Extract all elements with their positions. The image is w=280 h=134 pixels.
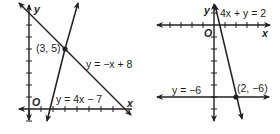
left-graph: y x O (3, 5) y = −x + 8 y = 4x − 7 [19, 3, 134, 121]
left-line-neg-x-plus-8 [19, 3, 28, 12]
left-origin-label: O [32, 96, 40, 108]
left-y-label: y [33, 3, 41, 15]
left-line-4x-minus-7 [65, 3, 78, 49]
left-intersection-point [62, 46, 67, 51]
right-intersection-label: (2, −6) [237, 82, 268, 94]
right-x-label: x [261, 27, 269, 39]
right-eq-4x-plus-y-2: 4x + y = 2 [220, 7, 266, 19]
left-line-4x-minus-7-end [47, 49, 65, 121]
right-eq-y-neg6: y = −6 [172, 84, 201, 96]
linear-systems-figure: y x O (3, 5) y = −x + 8 y = 4x − 7 y x O… [0, 0, 280, 134]
right-graph: y x O 4x + y = 2 y = −6 (2, −6) [157, 4, 270, 121]
left-eq-neg-x-plus-8: y = −x + 8 [86, 58, 133, 70]
right-origin-label: O [204, 27, 212, 39]
right-intersection-point [233, 94, 238, 99]
left-x-label: x [126, 97, 134, 109]
left-intersection-label: (3, 5) [36, 42, 61, 54]
left-eq-4x-minus-7: y = 4x − 7 [56, 93, 102, 105]
right-y-label: y [203, 4, 211, 16]
